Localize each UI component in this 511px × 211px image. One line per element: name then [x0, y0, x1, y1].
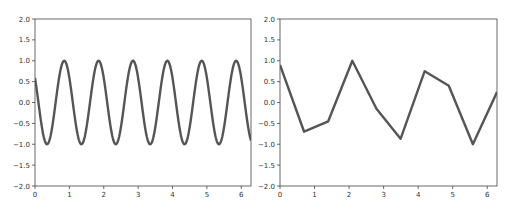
- y-tick-label: −1.0: [13, 141, 30, 149]
- left-plot: −2.0−1.5−1.0−0.50.00.51.01.52.00123456: [13, 16, 251, 200]
- x-tick-label: 3: [136, 191, 140, 199]
- x-tick-label: 5: [450, 191, 454, 199]
- axes-frame: [280, 19, 497, 186]
- y-tick-label: 0.0: [264, 99, 275, 107]
- y-tick-label: 1.0: [19, 57, 30, 65]
- data-line: [35, 61, 251, 145]
- y-tick-label: −2.0: [258, 183, 275, 191]
- x-tick-label: 0: [278, 191, 282, 199]
- y-tick-label: −0.5: [13, 120, 30, 128]
- y-tick-label: 0.5: [264, 78, 275, 86]
- y-tick-label: −2.0: [13, 183, 30, 191]
- y-tick-label: 0.0: [19, 99, 30, 107]
- data-line: [280, 61, 497, 145]
- y-tick-label: 1.5: [264, 36, 275, 44]
- x-tick-label: 3: [381, 191, 385, 199]
- x-tick-label: 2: [102, 191, 106, 199]
- x-tick-label: 5: [205, 191, 209, 199]
- x-tick-label: 0: [33, 191, 37, 199]
- x-tick-label: 1: [312, 191, 316, 199]
- x-tick-label: 4: [416, 191, 421, 199]
- axes-frame: [35, 19, 251, 186]
- x-tick-label: 1: [67, 191, 71, 199]
- x-tick-label: 6: [485, 191, 490, 199]
- y-tick-label: −1.5: [13, 162, 30, 170]
- y-tick-label: 2.0: [264, 16, 275, 24]
- y-tick-label: 1.0: [264, 57, 275, 65]
- figure: −2.0−1.5−1.0−0.50.00.51.01.52.00123456−2…: [0, 0, 511, 211]
- y-tick-label: −1.0: [258, 141, 275, 149]
- y-tick-label: 2.0: [19, 16, 30, 24]
- right-plot: −2.0−1.5−1.0−0.50.00.51.01.52.00123456: [258, 16, 497, 200]
- y-tick-label: −0.5: [258, 120, 275, 128]
- y-tick-label: −1.5: [258, 162, 275, 170]
- x-tick-label: 4: [170, 191, 175, 199]
- y-tick-label: 0.5: [19, 78, 30, 86]
- y-tick-label: 1.5: [19, 36, 30, 44]
- x-tick-label: 6: [239, 191, 244, 199]
- x-tick-label: 2: [347, 191, 351, 199]
